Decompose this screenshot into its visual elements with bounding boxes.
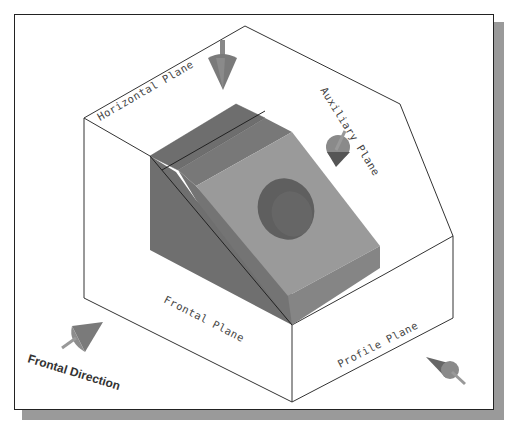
projection-box-diagram: Horizontal Plane Auxiliary Plane Frontal… [0,0,516,426]
frontal-plane-label: Frontal Plane [162,293,246,344]
auxiliary-plane-label: Auxiliary Plane [318,85,382,178]
frontal-direction-label: Frontal Direction [26,351,122,392]
auxiliary-view-arrow-icon [326,131,350,167]
horizontal-view-arrow-icon [208,40,237,90]
frontal-view-arrow-icon [62,322,103,352]
horizontal-plane-label: Horizontal Plane [95,58,196,123]
inclined-block [150,104,380,325]
profile-plane-label: Profile Plane [335,319,419,370]
profile-view-arrow-icon [426,357,465,384]
